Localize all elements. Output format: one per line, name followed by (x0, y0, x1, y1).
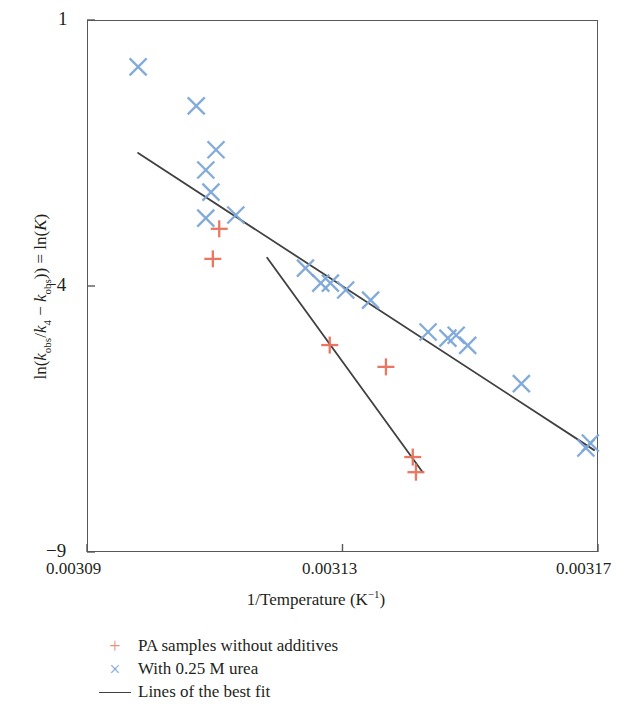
y-title-k3: k (31, 294, 50, 302)
y-title-k2: k (31, 326, 50, 334)
x-tick-label-1: 0.00309 (46, 559, 101, 579)
plot-area (87, 20, 598, 552)
legend-label-best-fit: Lines of the best fit (138, 682, 270, 702)
x-axis-title-exponent: −1 (368, 588, 380, 600)
y-title-part-5: ) (31, 214, 50, 220)
x-axis-title-tail: ) (380, 590, 386, 609)
plus-marker-icon: + (92, 636, 138, 656)
legend-item-urea: × With 0.25 M urea (92, 657, 512, 680)
chart-figure: 1 −4 −9 0.00309 0.00313 0.00317 1/Temper… (0, 0, 632, 704)
x-axis-title-main: 1/Temperature (K (247, 590, 368, 609)
y-title-part-3: − (31, 302, 50, 320)
y-title-sub1: obs (41, 338, 53, 353)
y-title-sub3: obs (41, 279, 53, 294)
legend-item-best-fit: Lines of the best fit (92, 680, 512, 703)
x-tick-label-3: 0.00317 (556, 559, 611, 579)
y-axis-title: ln(kobs/k4 − kobs)) = ln(K) (31, 31, 52, 563)
y-title-sub2: 4 (41, 320, 53, 326)
y-title-part-1: ln( (31, 361, 50, 380)
x-tick-label-2: 0.00313 (302, 559, 357, 579)
legend-label-pa-samples: PA samples without additives (138, 636, 338, 656)
y-title-k1: k (31, 353, 50, 361)
y-title-part-4: )) = ln( (31, 231, 50, 279)
legend-label-urea: With 0.25 M urea (138, 659, 258, 679)
chart-legend: + PA samples without additives × With 0.… (92, 634, 512, 703)
y-title-K: K (31, 220, 50, 231)
legend-item-pa-samples: + PA samples without additives (92, 634, 512, 657)
x-axis-title: 1/Temperature (K−1) (0, 588, 632, 610)
cross-marker-icon: × (92, 659, 138, 679)
y-title-part-2: / (31, 333, 50, 338)
